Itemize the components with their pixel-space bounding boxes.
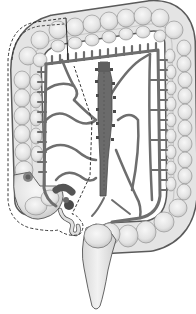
mesenteric-trunk bbox=[95, 62, 116, 196]
colon-diagram bbox=[0, 0, 196, 314]
colon-illustration bbox=[0, 0, 196, 314]
